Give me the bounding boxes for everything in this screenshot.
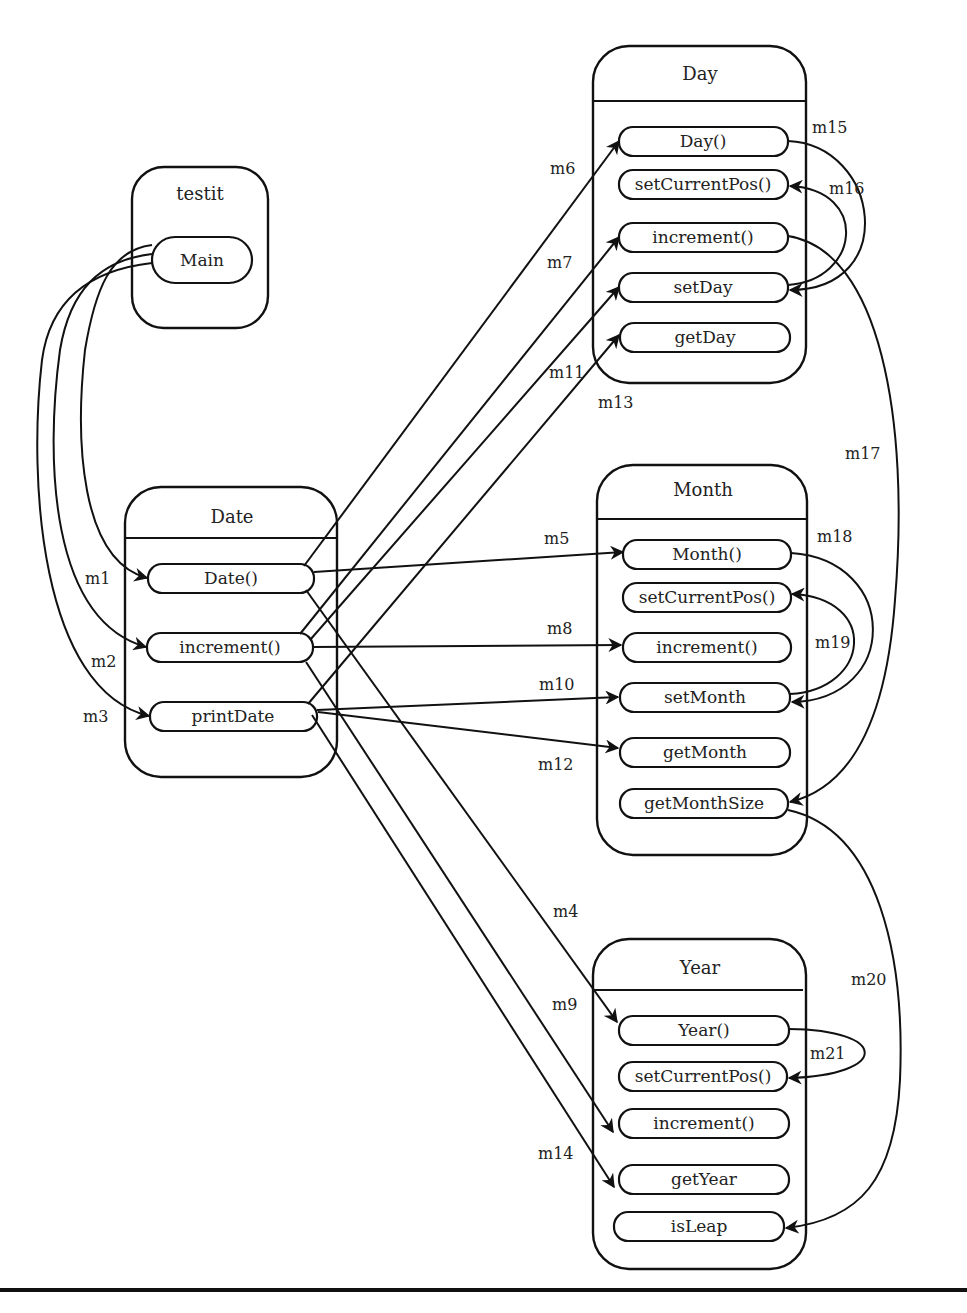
- edge-m13: [308, 335, 619, 704]
- method-day-constructor[interactable]: Day(): [619, 127, 788, 156]
- method-day-increment[interactable]: increment(): [619, 223, 788, 252]
- label-m10: m10: [539, 675, 575, 694]
- label-m19: m19: [815, 633, 851, 652]
- label-m7: m7: [547, 253, 572, 272]
- method-day-getday[interactable]: getDay: [620, 323, 790, 352]
- edge-m5: [314, 552, 623, 572]
- label-m8: m8: [547, 619, 572, 638]
- class-day: Day Day() setCurrentPos() increment() se…: [593, 46, 806, 383]
- label-m18: m18: [817, 527, 853, 546]
- svg-text:printDate: printDate: [192, 706, 275, 726]
- method-month-setmonth[interactable]: setMonth: [620, 683, 790, 712]
- method-day-setday[interactable]: setDay: [619, 273, 788, 302]
- svg-text:getMonthSize: getMonthSize: [644, 793, 764, 813]
- svg-text:Day(): Day(): [680, 131, 727, 151]
- collaboration-diagram: testit Main Date Date() increment() prin…: [0, 0, 967, 1313]
- edge-m20: [786, 810, 901, 1228]
- label-m11: m11: [549, 363, 585, 382]
- edge-m10: [317, 697, 618, 710]
- method-date-increment[interactable]: increment(): [147, 633, 313, 662]
- svg-text:setCurrentPos(): setCurrentPos(): [635, 174, 772, 194]
- label-m15: m15: [812, 118, 848, 137]
- method-year-setcurrentpos[interactable]: setCurrentPos(): [619, 1062, 787, 1091]
- class-title-testit: testit: [176, 183, 224, 204]
- label-m5: m5: [544, 529, 569, 548]
- class-testit: testit Main: [132, 167, 268, 328]
- class-month: Month Month() setCurrentPos() increment(…: [597, 465, 807, 855]
- method-date-constructor[interactable]: Date(): [148, 564, 314, 593]
- edge-m6: [304, 141, 619, 566]
- class-title-month: Month: [673, 479, 733, 500]
- svg-text:setMonth: setMonth: [664, 687, 746, 707]
- label-m2: m2: [91, 652, 116, 671]
- method-year-isleap[interactable]: isLeap: [614, 1212, 784, 1241]
- svg-text:increment(): increment(): [652, 227, 753, 247]
- method-month-increment[interactable]: increment(): [623, 633, 791, 662]
- class-date: Date Date() increment() printDate: [125, 487, 337, 777]
- class-year: Year Year() setCurrentPos() increment() …: [593, 939, 806, 1269]
- svg-text:increment(): increment(): [656, 637, 757, 657]
- label-m13: m13: [598, 393, 634, 412]
- label-m1: m1: [85, 569, 110, 588]
- edge-m12: [318, 712, 618, 748]
- label-m17: m17: [845, 444, 881, 463]
- class-title-date: Date: [210, 506, 253, 527]
- svg-text:getYear: getYear: [671, 1169, 738, 1189]
- svg-text:getDay: getDay: [674, 327, 736, 347]
- svg-text:Year(): Year(): [677, 1020, 729, 1040]
- edge-m9: [306, 662, 613, 1132]
- edge-m15: [788, 141, 865, 290]
- method-month-getmonth[interactable]: getMonth: [620, 738, 790, 767]
- svg-text:setCurrentPos(): setCurrentPos(): [635, 1066, 772, 1086]
- svg-text:getMonth: getMonth: [663, 742, 747, 762]
- method-month-constructor[interactable]: Month(): [623, 540, 791, 569]
- svg-text:Month(): Month(): [672, 544, 742, 564]
- svg-text:increment(): increment(): [653, 1113, 754, 1133]
- label-m21: m21: [810, 1044, 846, 1063]
- label-m16: m16: [829, 179, 865, 198]
- method-date-printdate[interactable]: printDate: [150, 702, 317, 731]
- edge-m16: [788, 186, 846, 285]
- edge-m3: [37, 263, 152, 716]
- svg-text:Date(): Date(): [204, 568, 258, 588]
- edge-m7: [300, 237, 619, 634]
- svg-text:increment(): increment(): [179, 637, 280, 657]
- class-title-year: Year: [679, 957, 721, 978]
- edge-m8: [313, 645, 621, 647]
- label-m4: m4: [553, 902, 578, 921]
- method-year-getyear[interactable]: getYear: [619, 1165, 789, 1194]
- method-main[interactable]: Main: [152, 237, 252, 283]
- method-year-increment[interactable]: increment(): [619, 1109, 789, 1138]
- svg-text:setDay: setDay: [674, 277, 733, 297]
- edge-m11: [310, 287, 619, 640]
- label-m6: m6: [550, 159, 575, 178]
- label-m3: m3: [83, 707, 108, 726]
- method-month-getmonthsize[interactable]: getMonthSize: [620, 789, 788, 818]
- label-m12: m12: [538, 755, 574, 774]
- method-month-setcurrentpos[interactable]: setCurrentPos(): [623, 583, 791, 612]
- label-m14: m14: [538, 1144, 574, 1163]
- edge-m14: [312, 715, 614, 1187]
- label-m9: m9: [552, 995, 577, 1014]
- label-m20: m20: [851, 970, 887, 989]
- method-year-constructor[interactable]: Year(): [619, 1016, 789, 1045]
- svg-text:isLeap: isLeap: [671, 1216, 728, 1236]
- svg-text:setCurrentPos(): setCurrentPos(): [639, 587, 776, 607]
- edge-m1: [81, 245, 152, 578]
- method-day-setcurrentpos[interactable]: setCurrentPos(): [619, 170, 788, 199]
- edge-m4: [306, 590, 617, 1022]
- svg-text:Main: Main: [180, 250, 224, 270]
- class-title-day: Day: [682, 63, 718, 84]
